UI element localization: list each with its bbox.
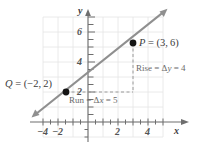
line-arrowhead-lower	[32, 110, 40, 118]
x-axis-label: x	[174, 126, 179, 136]
x-tick-label-minus-2: −2	[52, 127, 63, 137]
run-prefix: Run = Δ	[69, 95, 99, 105]
rise-run-dashed-lines	[66, 43, 133, 92]
x-tick-label-minus-4: −4	[37, 127, 48, 137]
line-arrowhead-upper	[160, 9, 168, 17]
axes	[30, 14, 183, 142]
point-q-coords: = (−2, 2)	[13, 78, 52, 89]
y-tick-label-4: 4	[77, 57, 82, 67]
x-tick-label-4: 4	[145, 127, 150, 137]
run-value: = 5	[103, 95, 117, 105]
point-p-label: P = (3, 6)	[139, 38, 179, 49]
coordinate-plane-figure: y x 6 4 2 −4 −2 2 4 P = (3, 6) Q = (−2, …	[0, 0, 208, 153]
rise-value: = 4	[171, 63, 185, 73]
point-p-marker	[130, 40, 137, 47]
y-axis-label: y	[78, 6, 82, 16]
rise-annotation-label: Rise = Δy = 4	[136, 64, 185, 73]
y-tick-label-6: 6	[77, 27, 82, 37]
y-axis-arrowhead	[85, 9, 91, 16]
rise-prefix: Rise = Δ	[136, 63, 167, 73]
point-p-coords: = (3, 6)	[145, 37, 178, 48]
point-q-name: Q	[5, 78, 13, 89]
run-annotation-label: Run = Δx = 5	[69, 96, 117, 105]
x-tick-label-2: 2	[115, 127, 120, 137]
x-axis-arrowhead	[181, 119, 189, 125]
point-q-label: Q = (−2, 2)	[5, 79, 52, 90]
